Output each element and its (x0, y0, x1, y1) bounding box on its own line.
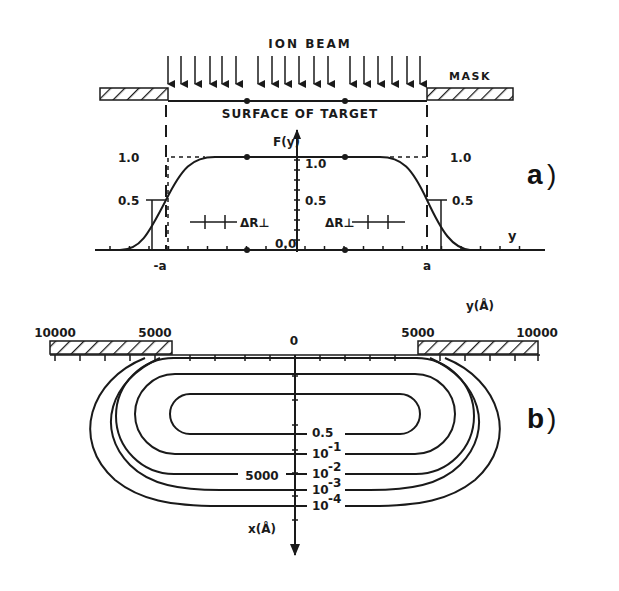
svg-text:ΔR⊥: ΔR⊥ (240, 216, 270, 230)
mask-right (427, 88, 513, 100)
y-tick-neg-10000: 10000 (34, 326, 76, 340)
edge-label-a: a (423, 259, 431, 273)
svg-text:10: 10 (312, 467, 329, 481)
ion-beam-label: ION BEAM (268, 37, 351, 51)
mask-left (50, 341, 172, 354)
y-tick-5000: 5000 (401, 326, 434, 340)
level-label-left-1: 1.0 (118, 151, 139, 165)
y-tick-10000: 10000 (516, 326, 558, 340)
x-axis-unit-label: x(Å) (248, 521, 276, 536)
surface-label: SURFACE OF TARGET (222, 107, 379, 121)
svg-text:10: 10 (312, 483, 329, 497)
panel-a: ION BEAM MASK SURFACE OF TARGET F(y) (95, 37, 556, 273)
level-label-left-05: 0.5 (118, 194, 139, 208)
y-tick-neg-5000: 5000 (138, 326, 171, 340)
mask-label: MASK (449, 70, 491, 83)
svg-text:-2: -2 (328, 460, 341, 474)
level-label-center-0: 0.0 (275, 237, 296, 251)
svg-text:10: 10 (312, 499, 329, 513)
figure-canvas: ION BEAM MASK SURFACE OF TARGET F(y) (0, 0, 619, 591)
panel-b-label: b (527, 403, 544, 434)
plateau-marker (342, 154, 348, 160)
ideal-step-left (168, 157, 205, 250)
surface-marker (244, 98, 250, 104)
mask-right (418, 341, 538, 354)
mask-left (100, 88, 168, 100)
delta-r-left: ΔR⊥ (190, 215, 270, 230)
ion-beam-arrows (168, 56, 420, 84)
y-axis-label: y (508, 228, 517, 243)
y-axis-unit-label: y(Å) (466, 298, 494, 313)
svg-text:-4: -4 (328, 492, 341, 506)
panel-b: 10000 5000 0 5000 10000 y(Å) 5000 (34, 298, 558, 555)
panel-b-paren: ) (547, 403, 556, 434)
delta-r-right: ΔR⊥ (325, 215, 405, 230)
fy-axis-label: F(y) (273, 135, 300, 149)
level-label-right-1: 1.0 (450, 151, 471, 165)
surface-marker (342, 98, 348, 104)
y-tick-0: 0 (290, 334, 298, 348)
edge-label-neg-a: -a (153, 259, 166, 273)
baseline-marker (342, 247, 348, 253)
x-tick-5000: 5000 (245, 469, 278, 483)
plateau-marker (244, 154, 250, 160)
level-label-center-1: 1.0 (305, 157, 326, 171)
panel-a-label: a (527, 159, 543, 190)
contour-label-0.5: 0.5 (312, 426, 333, 440)
svg-text:-3: -3 (328, 476, 341, 490)
svg-text:ΔR⊥: ΔR⊥ (325, 216, 355, 230)
panel-a-paren: ) (547, 159, 556, 190)
baseline-marker (244, 247, 250, 253)
svg-text:10: 10 (312, 447, 329, 461)
level-label-center-05: 0.5 (305, 194, 326, 208)
svg-text:-1: -1 (328, 440, 341, 454)
level-label-right-05: 0.5 (452, 194, 473, 208)
